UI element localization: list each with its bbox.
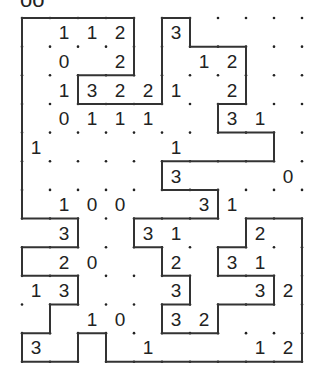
grid-dot — [133, 160, 136, 163]
clue-cell: 2 — [283, 337, 294, 358]
grid-dot — [245, 17, 248, 20]
clue-cell: 0 — [59, 108, 70, 129]
clue-cell: 1 — [59, 80, 70, 101]
grid-dot — [105, 45, 108, 48]
clue-cell: 1 — [171, 223, 182, 244]
grid-dot — [245, 332, 248, 335]
clue-cell: 3 — [227, 252, 238, 273]
grid-dot — [77, 189, 80, 192]
clue-cell: 1 — [255, 108, 266, 129]
grid-dot — [105, 131, 108, 134]
grid-dot — [273, 103, 276, 106]
clue-cell: 3 — [255, 280, 266, 301]
clue-cell: 3 — [227, 108, 238, 129]
grid-dot — [301, 131, 304, 134]
clue-cell: 2 — [59, 252, 70, 273]
clue-cell: 0 — [59, 51, 70, 72]
grid-dot — [133, 275, 136, 278]
clue-cell: 3 — [171, 280, 182, 301]
grid-dot — [49, 189, 52, 192]
grid-dot — [105, 189, 108, 192]
grid-dot — [133, 189, 136, 192]
clue-cell: 1 — [171, 80, 182, 101]
clue-cell: 1 — [227, 194, 238, 215]
clue-cell: 0 — [115, 309, 126, 330]
grid-dot — [133, 131, 136, 134]
slitherlink-board[interactable]: 1123021213221201113111301003133122023113… — [0, 0, 311, 379]
grid-dot — [77, 160, 80, 163]
grid-dot — [189, 103, 192, 106]
grid-dot — [273, 246, 276, 249]
clue-cell: 2 — [115, 80, 126, 101]
clue-cell: 3 — [199, 194, 210, 215]
grid-dot — [245, 189, 248, 192]
clue-cell: 0 — [283, 166, 294, 187]
grid-dot — [105, 246, 108, 249]
grid-dot — [273, 332, 276, 335]
grid-dot — [133, 303, 136, 306]
clue-cell: 3 — [59, 223, 70, 244]
grid-dot — [161, 131, 164, 134]
clue-cell: 1 — [87, 108, 98, 129]
grid-dot — [49, 131, 52, 134]
grid-dot — [217, 74, 220, 77]
grid-dot — [49, 74, 52, 77]
clue-cell: 1 — [199, 51, 210, 72]
grid-dot — [21, 303, 24, 306]
clue-cell: 1 — [59, 194, 70, 215]
clue-cell: 3 — [143, 223, 154, 244]
clue-cell: 2 — [171, 252, 182, 273]
clue-cell: 1 — [87, 22, 98, 43]
grid-dot — [301, 160, 304, 163]
clue-cell: 0 — [87, 252, 98, 273]
grid-dot — [301, 189, 304, 192]
clue-cell: 0 — [115, 194, 126, 215]
grid-dot — [77, 45, 80, 48]
clue-cell: 1 — [255, 337, 266, 358]
clue-cell: 1 — [87, 309, 98, 330]
grid-dot — [189, 246, 192, 249]
grid-dot — [273, 17, 276, 20]
grid-dot — [105, 275, 108, 278]
clue-cell: 1 — [143, 337, 154, 358]
clue-cell: 2 — [115, 51, 126, 72]
grid-dot — [301, 74, 304, 77]
clue-cell: 2 — [227, 51, 238, 72]
grid-dot — [273, 189, 276, 192]
grid-dot — [105, 217, 108, 220]
grid-dot — [133, 332, 136, 335]
clue-cell: 1 — [255, 252, 266, 273]
clue-cell: 1 — [143, 108, 154, 129]
clue-cell: 2 — [255, 223, 266, 244]
clue-cell: 3 — [87, 80, 98, 101]
grid-dot — [49, 160, 52, 163]
clue-cell: 3 — [59, 280, 70, 301]
clue-cell: 1 — [31, 280, 42, 301]
grid-dot — [217, 17, 220, 20]
grid-dot — [273, 45, 276, 48]
grid-dot — [189, 131, 192, 134]
clue-cell: 1 — [171, 137, 182, 158]
grid-dot — [77, 131, 80, 134]
clue-cell: 2 — [143, 80, 154, 101]
clue-cell: 0 — [87, 194, 98, 215]
clue-cell: 3 — [171, 22, 182, 43]
grid-dot — [273, 74, 276, 77]
clue-cell: 1 — [115, 108, 126, 129]
clue-cell: 2 — [199, 309, 210, 330]
grid-dot — [105, 303, 108, 306]
clue-cell: 2 — [227, 80, 238, 101]
grid-dot — [301, 45, 304, 48]
clue-cell: 2 — [115, 22, 126, 43]
clue-cell: 1 — [31, 137, 42, 158]
clue-cell: 3 — [171, 166, 182, 187]
clue-cell: 2 — [283, 280, 294, 301]
clue-cell: 1 — [59, 22, 70, 43]
grid-dot — [189, 74, 192, 77]
grid-dot — [301, 103, 304, 106]
grid-dot — [49, 45, 52, 48]
grid-dot — [105, 160, 108, 163]
clue-cell: 3 — [171, 309, 182, 330]
clue-cell: 3 — [31, 337, 42, 358]
grid-dot — [49, 103, 52, 106]
